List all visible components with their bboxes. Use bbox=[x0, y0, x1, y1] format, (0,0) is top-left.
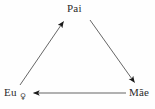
node-text-mae: Mãe bbox=[129, 86, 149, 98]
node-label-mae: Mãe bbox=[129, 86, 149, 98]
node-text-pai: Pai bbox=[67, 2, 82, 14]
node-label-eu: Eu♀ bbox=[4, 86, 23, 100]
female-symbol-icon: ♀ bbox=[20, 91, 26, 103]
kinship-triangle-diagram: Pai Eu♀ Mãe bbox=[0, 0, 155, 109]
edge-eu-to-pai bbox=[20, 22, 64, 86]
node-text-eu: Eu bbox=[4, 86, 17, 98]
edge-pai-to-mae bbox=[90, 20, 135, 83]
node-label-pai: Pai bbox=[67, 2, 82, 14]
